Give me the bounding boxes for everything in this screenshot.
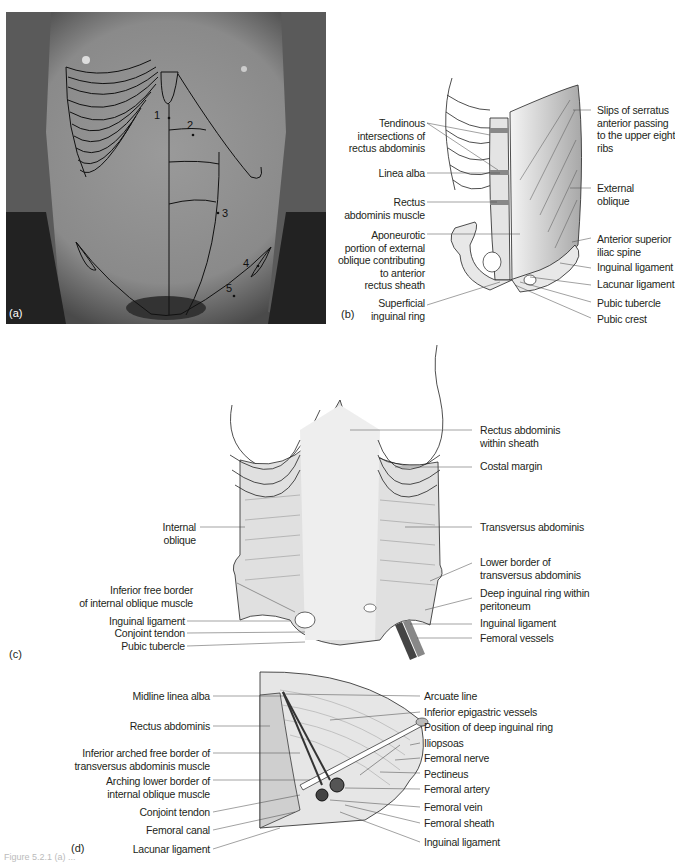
label-anterior-superior-iliac-spine: Anterior superioriliac spine [597, 233, 671, 258]
label-inferior-epigastric-vessels: Inferior epigastric vessels [424, 706, 537, 719]
label-iliopsoas: Iliopsoas [424, 737, 464, 750]
label-transversus-abdominis: Transversus abdominis [480, 521, 584, 534]
label-inguinal-ligament-d: Inguinal ligament [424, 836, 500, 849]
label-femoral-vessels: Femoral vessels [480, 632, 553, 645]
label-femoral-artery: Femoral artery [424, 783, 489, 796]
label-pubic-crest: Pubic crest [597, 313, 647, 326]
label-pubic-tubercle-c: Pubic tubercle [60, 640, 185, 653]
label-arcuate-line: Arcuate line [424, 690, 477, 703]
panel-label-c: (c) [9, 648, 22, 660]
panel-a-photo: 1 2 3 4 5 (a) [6, 12, 326, 324]
label-superficial-inguinal-ring: Superficialinguinal ring [325, 297, 425, 322]
label-linea-alba: Linea alba [325, 167, 425, 180]
label-inguinal-ligament-c-right: Inguinal ligament [480, 617, 556, 630]
label-conjoint-tendon-d: Conjoint tendon [60, 806, 210, 819]
label-conjoint-tendon-c: Conjoint tendon [60, 627, 185, 640]
label-inferior-free-border-internal-oblique: Inferior free borderof internal oblique … [40, 584, 193, 609]
label-femoral-nerve: Femoral nerve [424, 752, 489, 765]
panel-label-a: (a) [9, 307, 22, 319]
number-2: 2 [187, 119, 193, 131]
number-1: 1 [154, 109, 160, 121]
figure-caption: Figure 5.2.1 (a) ... [4, 852, 76, 862]
label-lacunar-ligament-b: Lacunar ligament [597, 278, 674, 291]
label-costal-margin: Costal margin [480, 460, 542, 473]
label-internal-oblique: Internaloblique [100, 521, 196, 546]
label-deep-inguinal-ring: Deep inguinal ring withinperitoneum [480, 587, 589, 612]
label-rectus-abdominis-within-sheath: Rectus abdominiswithin sheath [480, 424, 560, 449]
label-lower-border-transversus: Lower border oftransversus abdominis [480, 556, 581, 581]
label-femoral-sheath: Femoral sheath [424, 817, 494, 830]
label-aponeurotic-portion: Aponeuroticportion of externaloblique co… [315, 229, 425, 292]
label-external-oblique: Externaloblique [597, 182, 634, 207]
label-inferior-arched-free-border: Inferior arched free border oftransversu… [20, 747, 210, 772]
label-pectineus: Pectineus [424, 768, 468, 781]
number-3: 3 [222, 207, 228, 219]
label-femoral-vein: Femoral vein [424, 801, 482, 814]
label-rectus-abdominis-muscle: Rectusabdominis muscle [325, 196, 425, 221]
abdomen-surface-anatomy-drawing [6, 12, 326, 324]
panel-label-b: (b) [341, 308, 354, 320]
label-midline-linea-alba: Midline linea alba [60, 690, 210, 703]
label-inguinal-ligament-c-left: Inguinal ligament [60, 615, 185, 628]
number-4: 4 [243, 257, 249, 269]
label-slips-of-serratus: Slips of serratusanterior passingto the … [597, 104, 675, 154]
label-rectus-abdominis-d: Rectus abdominis [60, 720, 210, 733]
label-pubic-tubercle-b: Pubic tubercle [597, 297, 661, 310]
label-tendinous-intersections: Tendinousintersections ofrectus abdomini… [325, 117, 425, 155]
label-femoral-canal: Femoral canal [60, 824, 210, 837]
label-inguinal-ligament-b: Inguinal ligament [597, 261, 673, 274]
number-5: 5 [226, 282, 232, 294]
label-arching-lower-border: Arching lower border ofinternal oblique … [20, 775, 210, 800]
label-position-deep-inguinal-ring: Position of deep inguinal ring [424, 721, 553, 734]
